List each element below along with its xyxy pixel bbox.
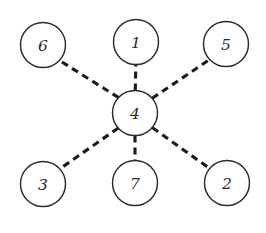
node-1-label: 1 — [131, 34, 141, 52]
edge-hub-to-node-1 — [135, 65, 136, 91]
node-3-label: 3 — [38, 176, 48, 194]
node-2[interactable]: 2 — [205, 161, 250, 206]
node-3[interactable]: 3 — [21, 162, 66, 207]
node-4-hub[interactable]: 4 — [113, 91, 158, 136]
edge-hub-to-node-3 — [60, 128, 118, 169]
node-6-label: 6 — [38, 37, 48, 55]
node-4-label: 4 — [129, 105, 140, 123]
node-7[interactable]: 7 — [113, 161, 158, 206]
graph-diagram: 6 1 5 4 3 7 2 — [0, 0, 266, 233]
node-1[interactable]: 1 — [114, 20, 159, 65]
graph-canvas: 6 1 5 4 3 7 2 — [0, 0, 266, 233]
edge-hub-to-node-6 — [59, 60, 118, 97]
node-7-label: 7 — [130, 175, 140, 193]
node-5[interactable]: 5 — [204, 22, 249, 67]
node-6[interactable]: 6 — [21, 23, 66, 68]
edge-hub-to-node-2 — [153, 128, 210, 169]
node-layer: 6 1 5 4 3 7 2 — [21, 20, 250, 207]
edge-hub-to-node-5 — [152, 60, 209, 99]
node-5-label: 5 — [221, 36, 231, 54]
node-2-label: 2 — [221, 175, 232, 193]
